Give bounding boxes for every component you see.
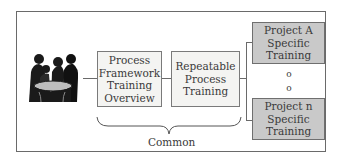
box-line: Training xyxy=(266,49,311,62)
box-line: Overview xyxy=(104,92,154,105)
ellipsis-dot: o xyxy=(279,84,299,93)
connector-line xyxy=(246,42,247,120)
box-line: Project A xyxy=(264,24,313,37)
box-line: Specific xyxy=(267,37,309,50)
box-line: Process xyxy=(109,54,150,67)
box-line: Repeatable xyxy=(175,60,235,73)
connector-line xyxy=(83,78,97,79)
box-line: Framework xyxy=(99,67,160,80)
box-line: Training xyxy=(107,79,152,92)
process-framework-box: Process Framework Training Overview xyxy=(97,51,162,107)
project-n-box: Project n Specific Training xyxy=(252,98,325,140)
box-line: Training xyxy=(183,85,228,98)
repeatable-process-box: Repeatable Process Training xyxy=(171,51,240,107)
common-label: Common xyxy=(148,136,195,148)
ellipsis-dot: o xyxy=(279,70,299,79)
box-line: Process xyxy=(185,73,226,86)
connector-line xyxy=(162,78,171,79)
project-a-box: Project A Specific Training xyxy=(252,22,325,64)
curly-brace-icon xyxy=(96,116,242,136)
box-line: Project n xyxy=(264,100,312,113)
people-meeting-icon xyxy=(25,52,81,102)
box-line: Specific xyxy=(267,113,309,126)
box-line: Training xyxy=(266,125,311,138)
